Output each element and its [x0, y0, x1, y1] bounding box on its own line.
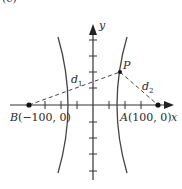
y-axis-arrow-icon: [89, 24, 97, 35]
panel-label: (c): [2, 0, 17, 4]
d2-label: d2: [142, 81, 154, 95]
x-axis-arrow-icon: [164, 101, 174, 109]
d1-subscript: 1: [78, 80, 82, 88]
point-b-label: B(−100, 0): [10, 112, 71, 123]
point-a: [155, 102, 160, 107]
point-p-label: P: [123, 60, 130, 71]
point-a-name: A: [120, 111, 128, 124]
d1-letter: d: [71, 73, 78, 86]
d2-subscript: 2: [149, 87, 153, 95]
point-b: [26, 102, 31, 107]
point-b-name: B: [10, 111, 18, 124]
x-axis-label: x: [171, 112, 177, 123]
d1-label: d1: [71, 74, 83, 88]
y-axis-label: y: [99, 20, 105, 31]
point-a-label: A(100, 0): [120, 112, 172, 123]
d2-letter: d: [142, 80, 149, 93]
point-a-coords: (100, 0): [128, 111, 172, 124]
point-p: [118, 70, 122, 74]
hyperbola-diagram: [0, 0, 182, 189]
point-b-coords: (−100, 0): [18, 111, 71, 124]
